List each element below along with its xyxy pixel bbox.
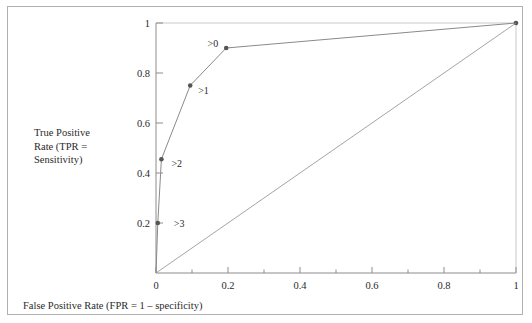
roc-point-label: >0 — [208, 38, 219, 49]
y-tick-label: 0.4 — [137, 168, 151, 179]
x-tick-label: 1 — [513, 280, 518, 291]
x-tick-label: 0.4 — [293, 280, 307, 291]
y-tick-label: 0.6 — [137, 118, 150, 129]
x-tick-label: 0.8 — [437, 280, 450, 291]
figure-body: True Positive Rate (TPR = Sensitivity) F… — [8, 7, 522, 314]
roc-chart: 00.20.40.60.810.20.40.60.81>3>2>1>0 — [8, 7, 524, 316]
roc-point-label: >3 — [174, 218, 185, 229]
y-tick-label: 1 — [145, 18, 150, 29]
roc-point-marker — [156, 221, 161, 226]
roc-point-marker — [188, 83, 193, 88]
x-tick-label: 0 — [153, 280, 158, 291]
roc-point-marker — [224, 46, 229, 51]
x-tick-label: 0.2 — [221, 280, 234, 291]
x-tick-label: 0.6 — [365, 280, 378, 291]
roc-point-label: >1 — [198, 85, 209, 96]
roc-point-marker — [159, 157, 164, 162]
chance-diagonal-line — [156, 23, 516, 273]
figure-frame: True Positive Rate (TPR = Sensitivity) F… — [7, 6, 523, 315]
y-tick-label: 0.2 — [137, 218, 150, 229]
roc-point-label: >2 — [171, 158, 182, 169]
y-tick-label: 0.8 — [137, 68, 150, 79]
